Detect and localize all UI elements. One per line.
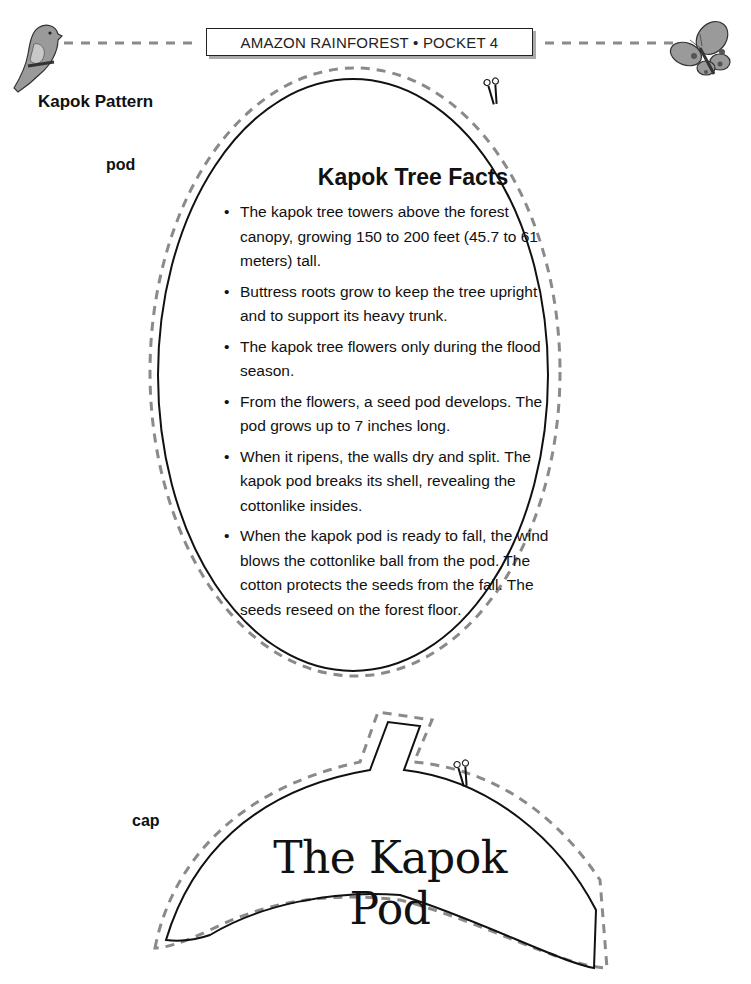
fact-item: Buttress roots grow to keep the tree upr… — [224, 280, 554, 329]
facts-list: The kapok tree towers above the forest c… — [224, 200, 554, 628]
fact-item: When it ripens, the walls dry and split.… — [224, 445, 554, 519]
fact-item: When the kapok pod is ready to fall, the… — [224, 524, 554, 622]
facts-title: Kapok Tree Facts — [228, 164, 598, 191]
cap-title: The Kapok Pod — [245, 832, 535, 934]
fact-item: From the flowers, a seed pod develops. T… — [224, 390, 554, 439]
pod-label: pod — [106, 156, 135, 174]
pod-scissors-icon — [477, 73, 509, 105]
section-title: Kapok Pattern — [38, 92, 153, 112]
butterfly-icon — [667, 15, 734, 75]
fact-item: The kapok tree towers above the forest c… — [224, 200, 554, 274]
parrot-icon — [14, 25, 62, 92]
header-title: AMAZON RAINFOREST • POCKET 4 — [206, 28, 533, 56]
cap-label: cap — [132, 812, 160, 830]
fact-item: The kapok tree flowers only during the f… — [224, 335, 554, 384]
